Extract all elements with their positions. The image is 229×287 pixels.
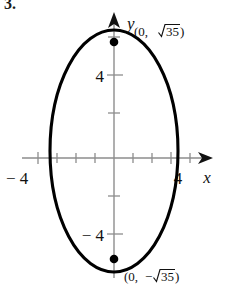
point-label-top-open: (0, <box>134 24 148 39</box>
x-axis-label: x <box>202 168 211 187</box>
point-label-bottom-sign: − <box>145 269 152 284</box>
point-label-focus-top: (0, 35 ) <box>134 24 184 39</box>
point-label-top-close: ) <box>180 24 184 39</box>
x-tick-label-neg4: − 4 <box>6 169 29 188</box>
x-axis-group: − 4 4 x <box>6 152 213 188</box>
y-tick-label-neg4: − 4 <box>82 226 105 245</box>
point-label-bottom-radicand: 35 <box>161 269 174 284</box>
y-tick-label-pos4: 4 <box>96 67 105 86</box>
point-label-focus-bottom: (0, − 35 ) <box>124 269 179 284</box>
point-label-top-radicand: 35 <box>166 24 179 39</box>
point-label-bottom-close: ) <box>175 269 179 284</box>
point-marker-focus-bottom <box>110 255 119 264</box>
point-label-bottom-open: (0, <box>124 269 138 284</box>
figure-page: 3. − 4 4 x <box>0 0 229 287</box>
coordinate-plane-figure: − 4 4 x 4 − 4 y <box>0 0 229 287</box>
y-axis-group: 4 − 4 y <box>82 12 135 278</box>
point-marker-focus-top <box>110 38 119 47</box>
y-axis-ticks <box>107 37 123 272</box>
